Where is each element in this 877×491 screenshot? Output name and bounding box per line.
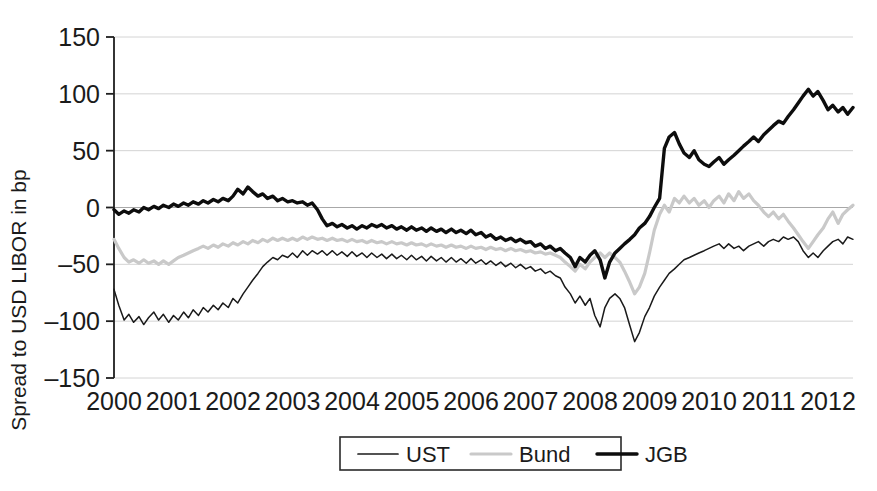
x-tick-label: 2004	[324, 387, 380, 415]
y-axis-title: Spread to USD LIBOR in bp	[7, 169, 30, 430]
x-tick-label: 2008	[562, 387, 618, 415]
x-tick-label: 2010	[681, 387, 737, 415]
x-tick-label: 2001	[146, 387, 202, 415]
y-tick-label: –100	[44, 307, 100, 335]
y-tick-label: –50	[58, 250, 100, 278]
x-tick-label: 2005	[384, 387, 440, 415]
y-tick-label: 50	[72, 137, 100, 165]
chart-page: 150100500–50–100–150 2000200120022003200…	[0, 0, 877, 491]
legend-label-bund: Bund	[519, 442, 570, 467]
legend-label-ust: UST	[406, 442, 450, 467]
y-tick-label: 0	[86, 194, 100, 222]
x-tick-label: 2000	[86, 387, 142, 415]
x-tick-label: 2011	[742, 387, 796, 415]
y-tick-label: 100	[58, 80, 100, 108]
x-tick-label: 2007	[503, 387, 559, 415]
x-tick-label: 2003	[265, 387, 321, 415]
x-tick-label: 2002	[205, 387, 261, 415]
x-tick-label: 2009	[622, 387, 678, 415]
y-tick-label: 150	[58, 23, 100, 51]
x-tick-label: 2006	[443, 387, 499, 415]
spread-to-usd-libor-line-chart: 150100500–50–100–150 2000200120022003200…	[0, 0, 877, 491]
legend-label-jgb: JGB	[645, 442, 688, 467]
x-tick-label: 2012	[800, 387, 856, 415]
